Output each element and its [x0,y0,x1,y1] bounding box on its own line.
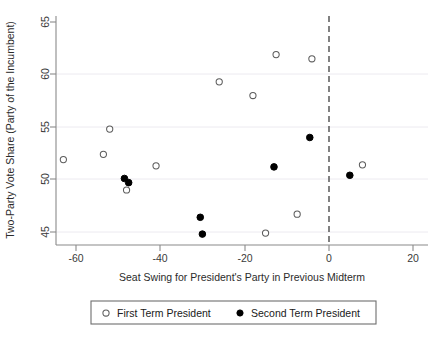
x-axis: -60 -40 -20 0 20 [56,245,428,264]
data-point [107,126,113,132]
x-tick-label-minus20: -20 [237,252,252,264]
data-point [250,92,256,98]
y-tick-label-45: 45 [39,226,51,238]
data-point [123,187,129,193]
y-axis-title: Two-Party Vote Share (Party of the Incum… [4,21,16,239]
x-tick-label-minus60: -60 [68,252,83,264]
y-axis: 65 60 55 50 45 [39,16,56,245]
data-point [125,179,132,186]
data-point [100,151,106,157]
data-point [153,163,159,169]
legend-label-first-term: First Term President [117,307,211,319]
gridlines [56,74,428,232]
data-point [294,211,300,217]
data-point [359,162,365,168]
y-tick-label-65: 65 [39,16,51,28]
x-tick-label-minus40: -40 [152,252,167,264]
data-point [309,56,315,62]
x-axis-title: Seat Swing for President's Party in Prev… [119,271,365,283]
data-point [306,134,313,141]
x-tick-label-0: 0 [326,252,332,264]
legend-label-second-term: Second Term President [251,307,360,319]
data-point [273,51,279,57]
data-point [197,214,204,221]
series-second-term-president [121,134,353,237]
data-points-layer [60,51,365,237]
data-point [262,230,268,236]
legend: First Term President Second Term Preside… [91,301,376,324]
x-tick-label-20: 20 [407,252,419,264]
legend-marker-second-term-icon [237,310,243,316]
data-point [347,172,354,179]
legend-marker-first-term-icon [103,310,109,316]
data-point [60,156,66,162]
scatter-plot-figure: 65 60 55 50 45 -60 -40 -20 0 20 Seat Swi… [0,0,436,338]
data-point [271,164,278,171]
series-first-term-president [60,51,365,236]
data-point [216,79,222,85]
chart-svg: 65 60 55 50 45 -60 -40 -20 0 20 Seat Swi… [0,0,436,338]
y-tick-label-55: 55 [39,121,51,133]
y-tick-label-50: 50 [39,173,51,185]
y-tick-label-60: 60 [39,68,51,80]
data-point [199,231,206,238]
